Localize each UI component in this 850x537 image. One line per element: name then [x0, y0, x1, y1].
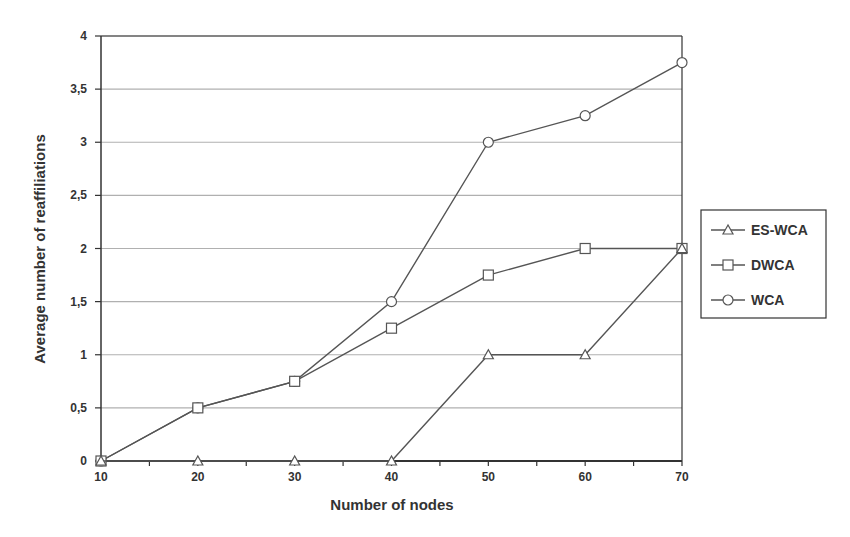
circle-marker: [483, 137, 493, 147]
x-axis-title: Number of nodes: [330, 496, 453, 513]
y-tick-label: 3: [80, 135, 87, 149]
y-tick-label: 0: [80, 454, 87, 468]
legend: ES-WCADWCAWCA: [701, 210, 826, 318]
circle-marker: [677, 58, 687, 68]
series-line: [101, 63, 682, 461]
x-tick-label: 30: [288, 470, 302, 484]
x-tick-label: 40: [385, 470, 399, 484]
legend-label: WCA: [751, 292, 784, 308]
y-tick-label: 1: [80, 348, 87, 362]
series-wca: [96, 58, 687, 466]
legend-label: ES-WCA: [751, 222, 808, 238]
y-axis-title: Average number of reaffiliations: [31, 134, 48, 364]
square-marker: [483, 270, 493, 280]
gridlines: [101, 36, 682, 408]
square-marker: [290, 376, 300, 386]
x-tick-label: 10: [94, 470, 108, 484]
x-tick-label: 20: [191, 470, 205, 484]
axes: 00,511,522,533,5410203040506070: [70, 29, 689, 484]
square-marker: [193, 403, 203, 413]
series-lines: [96, 58, 687, 466]
x-tick-label: 50: [482, 470, 496, 484]
circle-marker: [723, 295, 733, 305]
x-tick-label: 60: [578, 470, 592, 484]
x-tick-label: 70: [675, 470, 689, 484]
square-marker: [387, 323, 397, 333]
y-tick-label: 3,5: [70, 82, 87, 96]
circle-marker: [580, 111, 590, 121]
y-tick-label: 2,5: [70, 188, 87, 202]
square-marker: [580, 244, 590, 254]
y-tick-label: 0,5: [70, 401, 87, 415]
legend-label: DWCA: [751, 257, 795, 273]
square-marker: [723, 260, 733, 270]
line-chart: 00,511,522,533,5410203040506070 Number o…: [0, 0, 850, 537]
y-tick-label: 4: [80, 29, 87, 43]
circle-marker: [387, 297, 397, 307]
y-tick-label: 2: [80, 242, 87, 256]
y-tick-label: 1,5: [70, 295, 87, 309]
